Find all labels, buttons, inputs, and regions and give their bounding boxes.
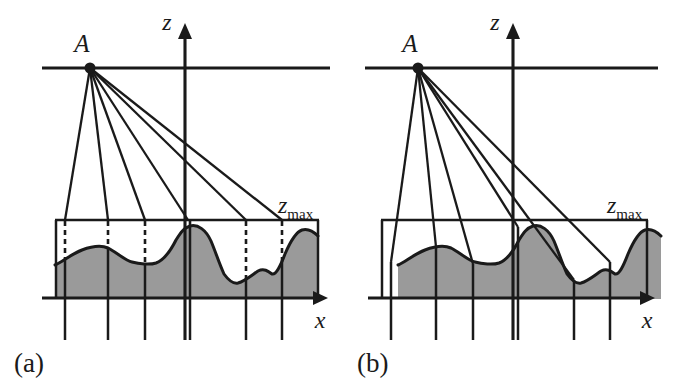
ray-b-1 (391, 68, 418, 262)
panel-b-canvas: A z x zmax (b) (343, 0, 685, 390)
ray-b-4 (418, 68, 518, 227)
zmax-label-b: zmax (606, 192, 643, 222)
z-axis-arrow-b (506, 23, 520, 39)
source-point-a (85, 63, 96, 74)
z-axis-arrow-a (178, 23, 192, 39)
zmax-label-sub-a: max (287, 206, 313, 222)
z-axis-label-a: z (161, 9, 172, 35)
zmax-label-sub-b: max (616, 206, 642, 222)
zmax-label-main-b: z (606, 192, 617, 218)
figure-root: A z x zmax (a) (0, 0, 685, 390)
source-label-a: A (72, 30, 90, 57)
ray-a-1 (65, 68, 90, 220)
panel-a-canvas: A z x zmax (a) (0, 0, 342, 390)
panel-caption-a: (a) (14, 348, 44, 378)
zmax-label-main-a: z (277, 192, 288, 218)
panel-caption-b: (b) (357, 348, 388, 378)
panel-b: A z x zmax (b) (343, 0, 685, 390)
ray-bundle-a (65, 68, 282, 220)
ray-bundle-b (391, 68, 610, 280)
x-axis-label-a: x (314, 307, 326, 333)
z-axis-label-b: z (489, 9, 500, 35)
source-point-b (413, 63, 424, 74)
x-axis-arrow-a (313, 291, 328, 305)
ray-a-5 (90, 68, 246, 220)
surface-region-b (398, 226, 661, 299)
panel-a: A z x zmax (a) (0, 0, 342, 390)
x-axis-label-b: x (641, 307, 653, 333)
source-label-b: A (400, 30, 418, 57)
zmax-label-a: zmax (277, 192, 314, 222)
